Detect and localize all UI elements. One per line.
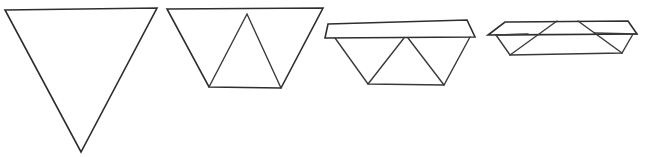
tilted-form-extreme-foreshortening-stroke-4 (496, 34, 528, 35)
canvas-background (0, 0, 649, 157)
figure-sheet: Rotation sequence line drawing Four outl… (0, 0, 649, 157)
drawing-surface (0, 0, 649, 157)
tilted-form-extreme-foreshortening-stroke-5 (594, 33, 637, 34)
